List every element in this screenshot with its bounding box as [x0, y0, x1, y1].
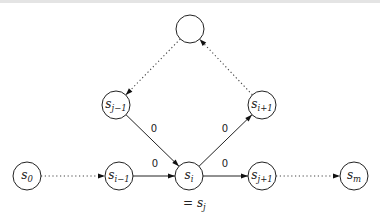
edge-label: 0	[222, 158, 228, 169]
edges-group	[41, 39, 340, 176]
edge-label: 0	[152, 158, 158, 169]
edge-label: 0	[222, 123, 228, 134]
node-circle	[176, 15, 204, 43]
node-si_1p: si+1	[248, 91, 276, 119]
node-si: si	[175, 162, 203, 190]
annotation-prefix: =	[183, 196, 197, 210]
node-sm: sm	[340, 162, 368, 190]
edge-label: 0	[151, 123, 157, 134]
edge-top-to-sj_1	[126, 39, 180, 95]
state-diagram: sj−1si+1s0si−1sisj+1sm 0000 = sj	[0, 0, 380, 217]
node-si_1: si−1	[105, 162, 133, 190]
node-sj1: sj+1	[248, 162, 276, 190]
node-s0: s0	[13, 162, 41, 190]
node-sj_1: sj−1	[102, 91, 130, 119]
annotation-label: = sj	[183, 196, 206, 212]
edge-si_1p-to-top	[200, 39, 253, 95]
node-top	[176, 15, 204, 43]
nodes-group: sj−1si+1s0si−1sisj+1sm	[13, 15, 368, 190]
